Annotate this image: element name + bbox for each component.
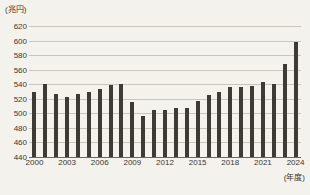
bar: [76, 94, 80, 157]
bar: [109, 85, 113, 157]
bar: [217, 92, 221, 158]
bar: [294, 42, 298, 157]
bar: [43, 84, 47, 158]
y-axis-tick-label: 580: [1, 51, 27, 60]
y-axis-unit-label: (兆円): [5, 3, 26, 14]
bar: [174, 108, 178, 157]
bar: [65, 97, 69, 157]
x-axis-tick-label: 2012: [156, 158, 174, 167]
x-axis-tick-label: 2000: [26, 158, 44, 167]
y-axis-tick-label: 480: [1, 124, 27, 133]
y-axis-tick-label: 460: [1, 138, 27, 147]
bar: [228, 87, 232, 157]
bar: [141, 116, 145, 157]
bar: [119, 84, 123, 157]
y-axis-tick-label: 620: [1, 22, 27, 31]
y-axis-tick-label: 440: [1, 153, 27, 162]
bar-chart: (兆円) 440460480500520540560580600620 2000…: [0, 0, 310, 195]
y-axis-tick-label: 520: [1, 95, 27, 104]
y-axis-tick-label: 540: [1, 80, 27, 89]
plot-area: [29, 26, 301, 157]
bar: [207, 95, 211, 157]
bar: [250, 86, 254, 157]
x-axis-tick-label: 2021: [254, 158, 272, 167]
bar: [283, 64, 287, 157]
x-axis-tick-label: 2009: [123, 158, 141, 167]
bar: [152, 110, 156, 157]
x-axis-tick-label: 2006: [91, 158, 109, 167]
bar: [261, 82, 265, 157]
bar: [196, 101, 200, 157]
y-axis-tick-labels: 440460480500520540560580600620: [0, 26, 27, 157]
bar: [54, 94, 58, 157]
x-axis-tick-label: 2003: [58, 158, 76, 167]
x-axis-tick-label: 2015: [189, 158, 207, 167]
x-axis-tick-labels: 200020032006200920122015201820212024: [29, 158, 301, 170]
x-axis-tick-label: 2018: [221, 158, 239, 167]
bar: [185, 108, 189, 157]
bar: [32, 92, 36, 157]
y-axis-tick-label: 600: [1, 37, 27, 46]
x-axis-unit-label: (年度): [284, 171, 305, 182]
bar: [87, 92, 91, 157]
bar: [272, 84, 276, 158]
bar: [130, 102, 134, 157]
y-axis-tick-label: 560: [1, 66, 27, 75]
bar-series: [29, 26, 301, 157]
bar: [239, 87, 243, 157]
bar: [163, 110, 167, 157]
bar: [98, 89, 102, 157]
y-axis-tick-label: 500: [1, 109, 27, 118]
x-axis-tick-label: 2024: [287, 158, 305, 167]
